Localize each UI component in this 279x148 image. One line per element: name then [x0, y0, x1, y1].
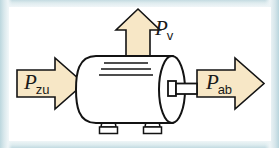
motor-foot-left-plate [100, 127, 118, 134]
shaft-collar [168, 81, 176, 96]
arrow-p-v-shape [116, 9, 160, 58]
label-p-zu-subscript: zu [36, 82, 49, 97]
label-p-v: Pv [155, 18, 174, 39]
label-p-v-symbol: P [155, 16, 168, 40]
label-p-ab-subscript: ab [218, 82, 232, 97]
label-p-v-subscript: v [167, 28, 173, 43]
diagram-page: Pzu Pv Pab [0, 0, 279, 148]
label-p-zu: Pzu [24, 72, 50, 93]
label-p-ab: Pab [206, 72, 233, 93]
motor-shaft [168, 81, 197, 96]
shaft-body [176, 84, 197, 95]
motor-foot-right-plate [144, 127, 162, 134]
arrow-p-v [116, 9, 160, 58]
label-p-ab-symbol: P [206, 70, 219, 94]
label-p-zu-symbol: P [24, 70, 37, 94]
